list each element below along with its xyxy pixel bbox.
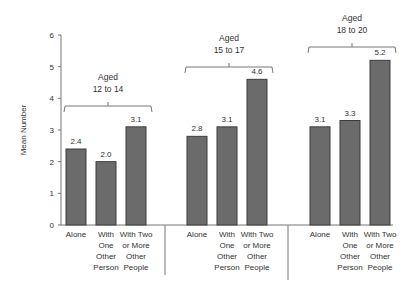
category-label: Person [337, 263, 362, 272]
bar [126, 127, 146, 225]
category-label: or More [122, 241, 150, 250]
bar [247, 79, 267, 225]
category-label: Other [340, 252, 360, 261]
category-label: With [98, 230, 114, 239]
bar-value-label: 3.1 [130, 115, 142, 124]
y-tick-label: 3 [50, 126, 55, 135]
category-label: One [342, 241, 358, 250]
category-label: With [342, 230, 358, 239]
category-label: Alone [187, 230, 208, 239]
group-label: 18 to 20 [337, 25, 368, 35]
category-label: One [98, 241, 114, 250]
bar-value-label: 2.8 [191, 124, 203, 133]
category-label: People [368, 263, 393, 272]
bar-value-label: 2.0 [100, 150, 112, 159]
category-label: Person [93, 263, 118, 272]
bar-group-3: 3.1Alone3.3WithOneOtherPerson5.2With Two… [308, 13, 397, 272]
category-label: With Two [120, 230, 153, 239]
category-label: Other [247, 252, 267, 261]
y-tick-label: 5 [50, 63, 55, 72]
bar [187, 136, 207, 225]
group-label: 12 to 14 [93, 84, 124, 94]
bar-groups: 2.4Alone2.0WithOneOtherPerson3.1With Two… [64, 13, 397, 272]
y-axis-label: Mean Number [19, 104, 28, 155]
group-label: 15 to 17 [214, 45, 245, 55]
bar [340, 121, 360, 226]
group-label: Aged [219, 33, 239, 43]
bar-value-label: 3.3 [344, 109, 356, 118]
bar [96, 162, 116, 225]
bar-value-label: 5.2 [374, 48, 386, 57]
chart-canvas: Mean Number 0123456 2.4Alone2.0WithOneOt… [0, 0, 418, 285]
category-label: Other [126, 252, 146, 261]
category-label: Other [217, 252, 237, 261]
y-tick-label: 6 [50, 31, 55, 40]
group-label: Aged [98, 72, 118, 82]
category-label: People [245, 263, 270, 272]
y-axis: 0123456 [50, 31, 61, 230]
bar [217, 127, 237, 225]
category-label: With [219, 230, 235, 239]
category-label: Other [96, 252, 116, 261]
bar-group-1: 2.4Alone2.0WithOneOtherPerson3.1With Two… [64, 72, 153, 272]
category-label: With Two [364, 230, 397, 239]
y-tick-label: 4 [50, 94, 55, 103]
y-tick-label: 1 [50, 189, 55, 198]
category-label: People [124, 263, 149, 272]
bar [66, 149, 86, 225]
bar-value-label: 4.6 [251, 67, 263, 76]
group-bracket [64, 102, 152, 112]
bar [310, 127, 330, 225]
category-label: Person [214, 263, 239, 272]
category-label: or More [366, 241, 394, 250]
category-label: or More [243, 241, 271, 250]
bar-group-2: 2.8Alone3.1WithOneOtherPerson4.6With Two… [185, 33, 274, 272]
bar-value-label: 2.4 [70, 137, 82, 146]
category-label: Alone [66, 230, 87, 239]
category-label: Other [370, 252, 390, 261]
y-tick-label: 2 [50, 158, 55, 167]
category-label: With Two [241, 230, 274, 239]
bar-chart: Mean Number 0123456 2.4Alone2.0WithOneOt… [0, 0, 418, 285]
group-label: Aged [342, 13, 362, 23]
bar-value-label: 3.1 [314, 115, 326, 124]
category-label: Alone [310, 230, 331, 239]
bar-value-label: 3.1 [221, 115, 233, 124]
bar [370, 60, 390, 225]
y-tick-label: 0 [50, 221, 55, 230]
category-label: One [219, 241, 235, 250]
